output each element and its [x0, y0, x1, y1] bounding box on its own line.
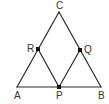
- point-Q-marker: [78, 48, 82, 52]
- label-Q: Q: [84, 44, 92, 55]
- label-A: A: [14, 90, 21, 101]
- label-B: B: [98, 90, 105, 101]
- point-R-marker: [36, 47, 40, 51]
- point-P-marker: [57, 85, 61, 89]
- marked-points: [36, 47, 82, 89]
- label-P: P: [56, 90, 63, 101]
- label-C: C: [56, 0, 63, 11]
- triangle-diagram: C R Q A P B: [0, 0, 109, 104]
- label-R: R: [27, 43, 34, 54]
- segment-PQ: [59, 50, 80, 87]
- segment-RP: [38, 49, 59, 87]
